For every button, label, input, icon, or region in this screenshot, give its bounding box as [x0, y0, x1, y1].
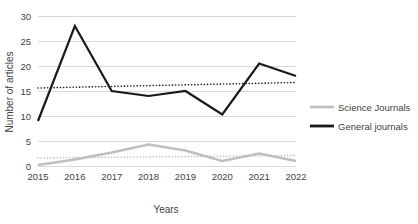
x-tick-label: 2019 — [175, 171, 196, 182]
y-tick-label: 15 — [20, 86, 31, 97]
line-chart: 051015202530 201520162017201820192020202… — [0, 0, 418, 224]
legend-label: Science Journals — [338, 102, 411, 113]
y-tick-label: 5 — [26, 136, 31, 147]
x-tick-label: 2020 — [212, 171, 233, 182]
x-tick-label: 2016 — [64, 171, 85, 182]
x-tick-label: 2021 — [249, 171, 270, 182]
x-tick-label: 2015 — [27, 171, 48, 182]
y-tick-label: 30 — [20, 11, 31, 22]
chart-canvas: 051015202530 201520162017201820192020202… — [0, 0, 418, 224]
x-axis-title: Years — [153, 204, 178, 215]
x-tick-label: 2022 — [285, 171, 306, 182]
y-tick-label: 10 — [20, 111, 31, 122]
y-tick-label: 0 — [26, 161, 31, 172]
y-tick-label: 20 — [20, 61, 31, 72]
legend-label: General journals — [338, 121, 408, 132]
x-tick-label: 2017 — [101, 171, 122, 182]
x-tick-label: 2018 — [138, 171, 159, 182]
y-axis-title: Number of articles — [4, 51, 15, 132]
y-tick-label: 25 — [20, 36, 31, 47]
